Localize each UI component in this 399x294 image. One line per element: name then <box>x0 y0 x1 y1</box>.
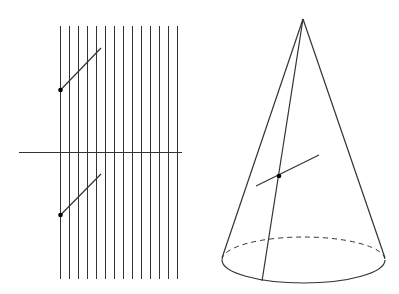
tangent-segment <box>61 174 102 215</box>
geometry-diagram <box>0 0 399 294</box>
cone-generatrix <box>262 19 303 281</box>
base-ellipse-hidden-arc <box>222 237 385 260</box>
parallel-lines-figure <box>19 26 182 279</box>
cone-right-edge <box>303 19 385 258</box>
point-marker <box>58 213 63 218</box>
tangent-segment <box>61 48 102 90</box>
point-marker <box>277 174 282 179</box>
transversal-segment <box>256 155 319 186</box>
diagram-canvas <box>0 0 399 294</box>
cone-left-edge <box>222 19 303 258</box>
base-ellipse-visible-arc <box>222 260 385 283</box>
point-marker <box>58 88 63 93</box>
cone-figure <box>222 19 385 283</box>
